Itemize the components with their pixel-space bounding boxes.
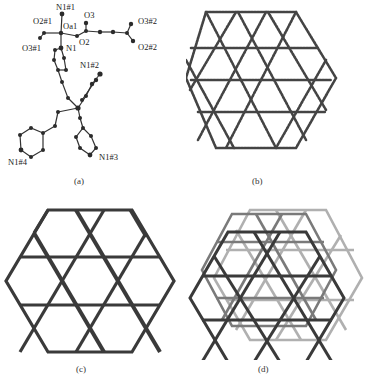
- atom-label-n1-2: N1#2: [80, 60, 99, 70]
- panel-a: N1#1 O2#1 Oa1 O3 O3#2 O3#1 N1 O2 O2#2 N1…: [0, 0, 186, 190]
- packed-network-diagram: [186, 0, 372, 160]
- caption-b: (b): [252, 176, 263, 186]
- caption-c: (c): [76, 364, 86, 374]
- panel-c: (c): [0, 190, 186, 387]
- panel-b: (b): [186, 0, 372, 190]
- interpenetrated-nets-diagram: [186, 190, 372, 360]
- molecule-structure-diagram: N1#1 O2#1 Oa1 O3 O3#2 O3#1 N1 O2 O2#2 N1…: [0, 0, 186, 175]
- panel-d: (d): [186, 190, 372, 387]
- caption-a: (a): [74, 176, 84, 186]
- caption-d: (d): [258, 364, 269, 374]
- atom-label-n1-1: N1#1: [56, 2, 75, 12]
- atom-label-n1-4: N1#4: [8, 157, 28, 167]
- atom-label-o2-1: O2#1: [33, 16, 52, 26]
- atom-label-o3-1: O3#1: [22, 43, 41, 53]
- atom-label-o3-2: O3#2: [138, 16, 157, 26]
- atom-label-o3: O3: [84, 10, 94, 20]
- atom-label-o2-2: O2#2: [138, 42, 157, 52]
- kagome-net-diagram: [0, 190, 186, 360]
- atom-label-oa1: Oa1: [63, 21, 77, 31]
- atom-label-n1-3: N1#3: [99, 152, 118, 162]
- atom-label-o2: O2: [79, 37, 89, 47]
- atom-label-n1: N1: [66, 43, 76, 53]
